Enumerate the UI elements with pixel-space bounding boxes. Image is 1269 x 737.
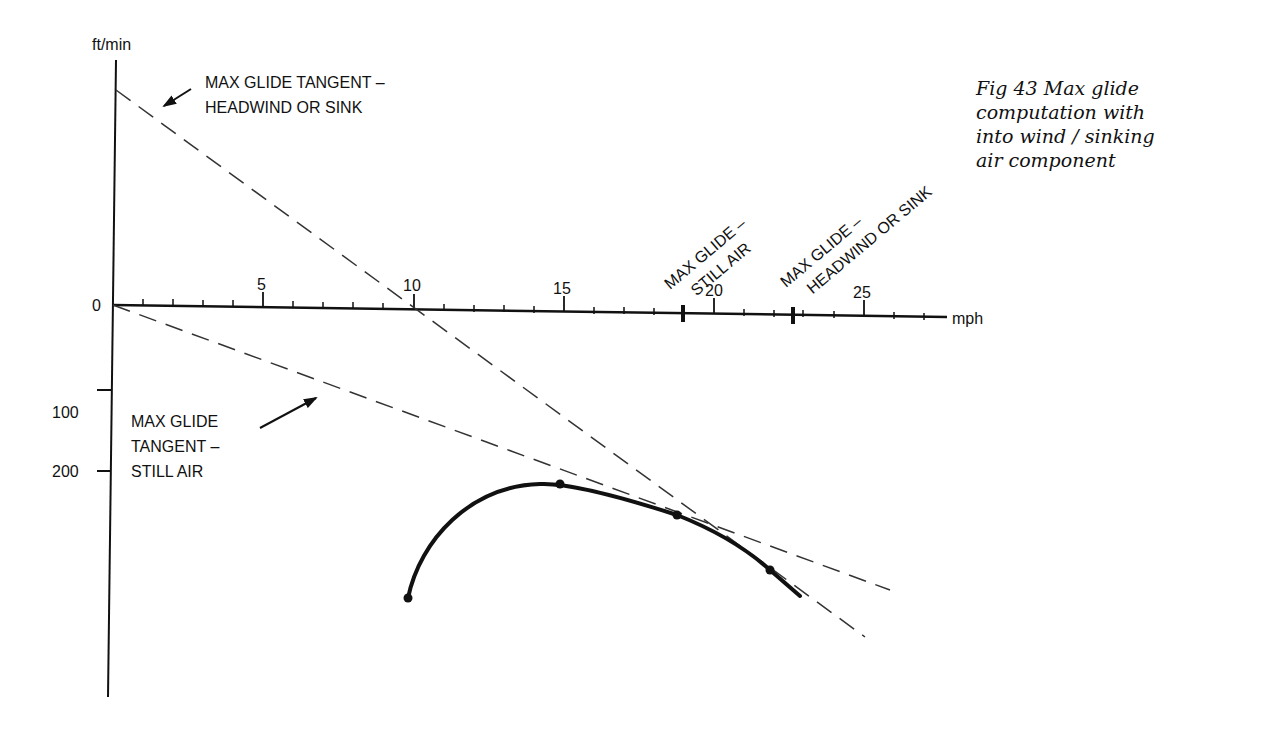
x-minor-ticks [143,299,924,320]
curve-point [766,566,775,575]
headwind-arrow-icon [164,89,191,106]
x-tick-label-25: 25 [853,284,871,301]
caption-line: air component [976,148,1266,172]
x-tick-label-10: 10 [403,277,421,294]
y-axis [108,60,116,697]
curve-point [404,594,413,603]
x-tick-label-15: 15 [553,280,571,297]
still-air-tangent-line [113,305,890,590]
curve-point [673,511,682,520]
curve-point [556,480,565,489]
x-tick-label-5: 5 [257,276,266,293]
headwind-tangent-label-line1: MAX GLIDE TANGENT – [205,74,385,91]
figure-caption: Fig 43 Max glide computation with into w… [976,76,1266,172]
caption-line: into wind / sinking [976,124,1266,148]
still-air-tangent-label-line3: STILL AIR [131,463,203,480]
still-air-arrow-icon [260,398,316,428]
headwind-tangent-label-line2: HEADWIND OR SINK [205,99,363,116]
x-axis-unit: mph [952,310,983,327]
still-air-tangent-label-line1: MAX GLIDE [131,413,218,430]
caption-line: Fig 43 Max glide [976,76,1266,100]
y-tick-label-100: 100 [52,404,79,421]
x-axis [113,305,947,317]
caption-line: computation with [976,100,1266,124]
polar-curve [408,484,800,598]
origin-label: 0 [92,297,101,314]
y-tick-label-200: 200 [52,463,79,480]
y-axis-unit: ft/min [92,36,131,53]
still-air-tangent-label-line2: TANGENT – [131,438,219,455]
